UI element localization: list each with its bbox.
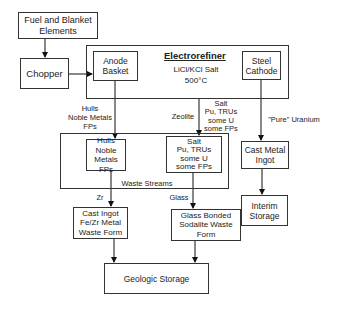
electrorefiner-title: Electrorefiner — [164, 50, 226, 61]
node-geologic-storage: Geologic Storage — [104, 263, 209, 294]
node-steel-cathode: Steel Cathode — [242, 51, 281, 80]
node-hulls: Hulls Noble Metals FPs — [86, 139, 126, 171]
edge-label-salt: Salt Pu, TRUs some U some FPs — [199, 100, 243, 133]
edge-label-glass: Glass — [167, 193, 191, 202]
node-cast-ingot: Cast Ingot Fe/Zr Metal Waste Form — [73, 207, 128, 239]
electrorefiner-desc: LiCl/KCl Salt 500°C — [166, 64, 226, 86]
node-salt: Salt Pu, TRUs some U some FPs — [166, 136, 222, 173]
node-chopper: Chopper — [20, 58, 69, 89]
edge-label-hulls: Hulls Noble Metals FPs — [68, 104, 112, 131]
edge-label-zeolite: Zeolite — [168, 112, 198, 121]
edge-label-pure-uranium: "Pure" Uranium — [262, 115, 326, 124]
node-cast-metal-ingot: Cast Metal Ingot — [241, 141, 289, 169]
process-flow-diagram: Electrorefiner LiCl/KCl Salt 500°C Waste… — [0, 0, 337, 312]
node-glass-bonded: Glass Bonded Sodalite Waste Form — [171, 209, 241, 241]
node-interim-storage: Interim Storage — [241, 195, 288, 226]
waste-streams-label: Waste Streams — [117, 179, 177, 188]
node-fuel-blanket: Fuel and Blanket Elements — [18, 12, 98, 39]
edge-label-zr: Zr — [94, 193, 106, 202]
node-anode-basket: Anode Basket — [93, 51, 138, 81]
